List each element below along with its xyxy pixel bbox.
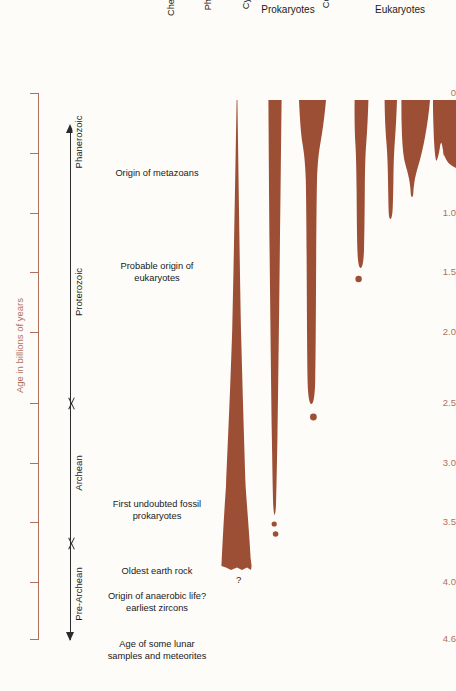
- bar-colonial-algae: [385, 100, 397, 219]
- bar-green-algae: [355, 100, 369, 268]
- bar-photosynthetic-dot-2: [273, 531, 279, 537]
- bar-green-algae-dot: [355, 276, 361, 282]
- bar-photosynthetic-dot-1: [272, 521, 277, 526]
- bar-cyanobacteria-dot: [310, 414, 317, 421]
- evolution-timeline-figure: Age in billions of years 00.51.01.52.02.…: [0, 0, 456, 691]
- bar-chemosynthetic-base-edge: [221, 566, 251, 570]
- bar-invertebrate-metazoans: [401, 100, 430, 197]
- bar-vertebrate: [433, 100, 456, 168]
- uncertainty-question-mark: ?: [236, 574, 241, 585]
- bar-chemosynthetic-bacteria: [221, 100, 251, 566]
- bar-photosynthetic-bacteria: [268, 100, 281, 515]
- lineage-range-bars: [0, 0, 456, 691]
- bar-cyanobacteria: [299, 100, 326, 404]
